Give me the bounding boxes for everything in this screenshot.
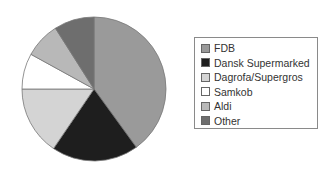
legend-swatch-icon <box>201 44 210 53</box>
chart-legend: FDB Dansk Supermarked Dagrofa/Supergros … <box>194 37 318 129</box>
pie-chart <box>0 0 190 169</box>
legend-label: Dagrofa/Supergros <box>214 71 303 83</box>
legend-label: FDB <box>214 42 235 54</box>
legend-swatch-icon <box>201 102 210 111</box>
legend-label: Aldi <box>214 100 232 112</box>
legend-label: Other <box>214 115 240 127</box>
legend-label: Samkob <box>214 86 253 98</box>
legend-swatch-icon <box>201 87 210 96</box>
legend-item-dansk-supermarked: Dansk Supermarked <box>201 56 317 71</box>
legend-swatch-icon <box>201 58 210 67</box>
legend-item-aldi: Aldi <box>201 99 317 114</box>
legend-label: Dansk Supermarked <box>214 57 310 69</box>
legend-swatch-icon <box>201 73 210 82</box>
legend-item-dagrofa-supergros: Dagrofa/Supergros <box>201 70 317 85</box>
legend-item-samkob: Samkob <box>201 85 317 100</box>
legend-swatch-icon <box>201 116 210 125</box>
legend-item-fdb: FDB <box>201 41 317 56</box>
legend-item-other: Other <box>201 114 317 129</box>
